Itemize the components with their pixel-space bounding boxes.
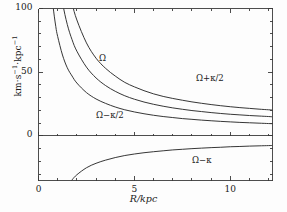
x-tick-label: 5 — [122, 184, 146, 194]
x-tick-label: 10 — [218, 184, 242, 194]
y-tick-label: 100 — [9, 2, 33, 12]
y-tick-label: 0 — [9, 129, 33, 139]
curve-1 — [43, 0, 272, 110]
y-tick-label: 50 — [9, 66, 33, 76]
plot-canvas — [0, 0, 287, 212]
x-tick-label: 0 — [27, 184, 51, 194]
rotation-curve-figure: km·s−1·kpc−1 R/kpc 0501000510Ω+κ/2ΩΩ−κ/2… — [0, 0, 287, 212]
curve-label-omega-minus-kappa: Ω−κ — [192, 155, 211, 165]
x-axis-label: R/kpc — [0, 193, 287, 204]
curve-2 — [43, 0, 272, 117]
curve-label-omega-minus-half-kappa: Ω−κ/2 — [96, 110, 124, 120]
curve-label-omega-plus-half-kappa: Ω+κ/2 — [196, 73, 224, 83]
curve-label-omega: Ω — [99, 53, 106, 63]
